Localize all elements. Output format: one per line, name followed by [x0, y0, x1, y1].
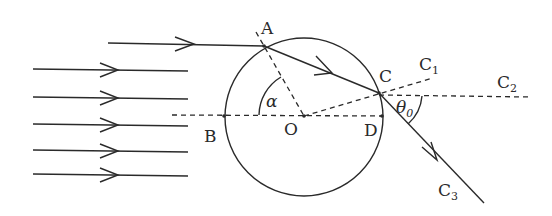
- label-alpha: α: [266, 91, 278, 111]
- refracted-ray-ac: [264, 46, 379, 93]
- label-c3: C3: [438, 180, 458, 203]
- point-d-dot: [380, 114, 384, 118]
- line-o-c1: [304, 78, 433, 116]
- label-b: B: [204, 126, 217, 146]
- point-a-dot: [262, 44, 266, 48]
- point-c-dot: [377, 91, 381, 95]
- label-c: C: [379, 66, 392, 86]
- parallel-rays: [33, 63, 188, 182]
- label-theta0: θ0: [396, 97, 413, 120]
- optics-diagram: A B O C D C1 C2 C3 α θ0: [0, 0, 552, 216]
- label-c2: C2: [497, 72, 517, 95]
- label-c1: C1: [419, 54, 439, 77]
- label-a: A: [260, 18, 274, 38]
- emergent-ray-c3: [379, 93, 484, 203]
- axis-line-bod: [172, 115, 382, 116]
- label-o: O: [284, 119, 298, 139]
- point-b-dot: [222, 114, 226, 118]
- diagram-canvas: A B O C D C1 C2 C3 α θ0: [0, 0, 552, 216]
- incident-ray: [108, 43, 264, 46]
- label-d: D: [364, 120, 378, 140]
- point-o-dot: [302, 114, 306, 118]
